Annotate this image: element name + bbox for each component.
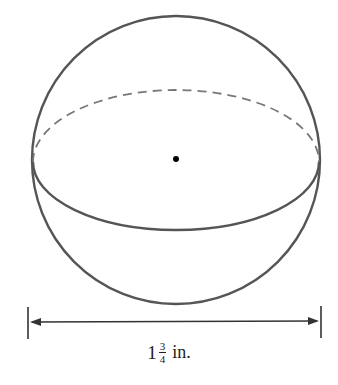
fraction-numerator: 3 [159, 340, 167, 353]
diameter-arrow-line [32, 321, 317, 322]
center-dot [173, 156, 179, 162]
diameter-unit: in. [172, 342, 191, 362]
diameter-label: 134in. [0, 340, 338, 365]
sphere-diagram [0, 0, 338, 385]
left-arrowhead [30, 318, 41, 326]
fraction-denominator: 4 [159, 353, 167, 365]
equator-front [33, 162, 319, 230]
right-arrowhead [308, 317, 319, 325]
diameter-whole: 1 [147, 342, 157, 363]
diameter-fraction: 34 [159, 340, 167, 365]
equator-back-dashed [33, 90, 319, 162]
